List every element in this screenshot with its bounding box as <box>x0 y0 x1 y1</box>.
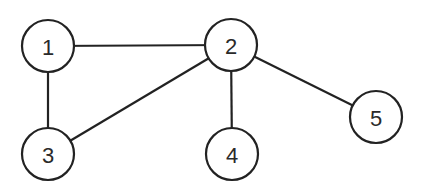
node-label: 1 <box>42 35 54 60</box>
node-label: 4 <box>226 143 238 168</box>
node-label: 3 <box>42 143 54 168</box>
node-3: 3 <box>22 128 74 180</box>
node-label: 2 <box>225 34 237 59</box>
edge-2-3 <box>48 45 231 154</box>
node-label: 5 <box>370 106 382 131</box>
node-5: 5 <box>350 91 402 143</box>
nodes: 12345 <box>22 19 402 180</box>
node-2: 2 <box>205 19 257 71</box>
graph-diagram: 12345 <box>0 0 425 194</box>
node-1: 1 <box>22 20 74 72</box>
edge-1-2 <box>48 45 231 46</box>
node-4: 4 <box>206 128 258 180</box>
